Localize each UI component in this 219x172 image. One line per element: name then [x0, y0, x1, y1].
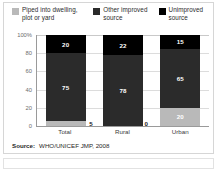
y-tick-40: 40: [26, 87, 32, 93]
segment-total-piped[interactable]: [46, 121, 86, 126]
source-line: Source:WHO/UNICEF JMP, 2008: [12, 142, 109, 149]
legend-label-other-improved: Other improved source: [103, 6, 152, 22]
plot-wrapper: 100% 80 60 40 20 0 20: [12, 35, 209, 127]
bottom-strip: [3, 158, 214, 169]
legend-item-other-improved: Other improved source: [93, 6, 152, 22]
source-value: WHO/UNICEF JMP, 2008: [39, 142, 109, 149]
legend-label-unimproved: Unimproved source: [169, 6, 210, 22]
legend-item-piped: Piped into dwelling, plot or yard: [12, 6, 87, 22]
x-label-urban: Urban: [151, 128, 209, 135]
y-tick-20: 20: [26, 105, 32, 111]
y-axis: 100% 80 60 40 20 0: [12, 35, 34, 127]
y-tick-60: 60: [26, 68, 32, 74]
stacked-bar-urban: 15 65 20: [160, 35, 200, 126]
figure-card: Piped into dwelling, plot or yard Other …: [3, 2, 214, 154]
legend-label-piped: Piped into dwelling, plot or yard: [22, 6, 87, 22]
source-key-label: Source:: [12, 142, 35, 149]
plot-area: 20 75 5 22: [36, 35, 209, 127]
bar-slot-total: 20 75 5: [37, 35, 94, 126]
segment-label-rural-unimproved: 22: [119, 42, 126, 49]
segment-total-other-improved[interactable]: 75: [46, 53, 86, 121]
segment-label-total-other-improved: 75: [62, 84, 69, 91]
y-tick-0: 0: [29, 123, 32, 129]
segment-total-unimproved[interactable]: 20: [46, 35, 86, 53]
bar-slot-rural: 22 78 0: [94, 35, 151, 126]
stacked-bar-total: 20 75 5: [46, 35, 86, 126]
x-label-total: Total: [36, 128, 94, 135]
stacked-bar-rural: 22 78 0: [103, 35, 143, 126]
segment-label-urban-piped: 20: [177, 113, 184, 120]
y-tick-80: 80: [26, 50, 32, 56]
y-tick-100: 100%: [17, 32, 32, 38]
segment-label-total-unimproved: 20: [62, 41, 69, 48]
segment-label-rural-piped: 0: [145, 120, 148, 127]
segment-urban-unimproved[interactable]: 15: [160, 35, 200, 49]
legend-item-unimproved: Unimproved source: [159, 6, 210, 22]
segment-rural-other-improved[interactable]: 78: [103, 55, 143, 126]
chart-legend: Piped into dwelling, plot or yard Other …: [12, 6, 210, 22]
bar-group: 20 75 5 22: [37, 35, 209, 126]
x-axis-labels: Total Rural Urban: [36, 128, 209, 135]
segment-label-total-piped: 5: [89, 120, 92, 127]
segment-urban-other-improved[interactable]: 65: [160, 49, 200, 108]
segment-label-urban-other-improved: 65: [177, 75, 184, 82]
legend-swatch-piped: [12, 8, 19, 15]
x-label-rural: Rural: [94, 128, 152, 135]
segment-label-rural-other-improved: 78: [119, 87, 126, 94]
legend-swatch-unimproved: [159, 8, 166, 15]
segment-rural-unimproved[interactable]: 22: [103, 35, 143, 55]
legend-swatch-other-improved: [93, 8, 100, 15]
bar-slot-urban: 15 65 20: [152, 35, 209, 126]
segment-label-urban-unimproved: 15: [177, 38, 184, 45]
segment-urban-piped[interactable]: 20: [160, 108, 200, 126]
chart-screenshot: Piped into dwelling, plot or yard Other …: [0, 0, 219, 172]
